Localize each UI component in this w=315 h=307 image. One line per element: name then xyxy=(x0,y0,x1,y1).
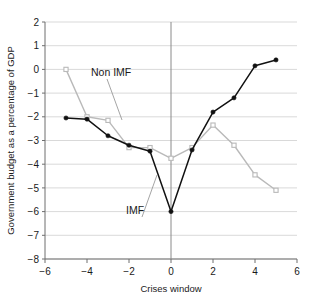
x-tick-label: 0 xyxy=(168,266,174,277)
data-point-marker xyxy=(274,58,278,62)
y-axis-ticks: 210−1−2−3−4−5−6−7−8 xyxy=(28,17,45,265)
y-tick-label: 0 xyxy=(33,64,39,75)
x-tick-label: 4 xyxy=(252,266,258,277)
data-point-marker xyxy=(253,64,257,68)
data-point-marker xyxy=(85,117,89,121)
y-tick-label: −6 xyxy=(28,206,40,217)
data-point-marker xyxy=(64,116,68,120)
y-tick-label: −4 xyxy=(28,159,40,170)
data-point-marker xyxy=(253,173,257,177)
y-tick-label: −5 xyxy=(28,183,40,194)
x-axis-ticks: −6−4−20246 xyxy=(39,259,300,277)
data-point-marker xyxy=(232,143,236,147)
data-point-marker xyxy=(211,123,215,127)
y-axis-title: Government budget as a percentage of GDP xyxy=(5,46,16,235)
data-point-marker xyxy=(148,149,152,153)
chart-container: −6−4−20246 210−1−2−3−4−5−6−7−8 Non IMFIM… xyxy=(0,0,315,307)
data-point-marker xyxy=(232,96,236,100)
data-point-marker xyxy=(169,210,173,214)
data-point-marker xyxy=(211,110,215,114)
data-point-marker xyxy=(127,143,131,147)
x-tick-label: −4 xyxy=(81,266,93,277)
data-point-marker xyxy=(274,188,278,192)
data-point-marker xyxy=(106,134,110,138)
x-axis-title: Crises window xyxy=(140,283,201,294)
x-tick-label: 6 xyxy=(294,266,300,277)
x-tick-label: −6 xyxy=(39,266,51,277)
line-chart: −6−4−20246 210−1−2−3−4−5−6−7−8 Non IMFIM… xyxy=(0,0,315,307)
data-point-marker xyxy=(190,148,194,152)
annotation-label-imf: IMF xyxy=(126,204,144,216)
y-tick-label: 2 xyxy=(33,17,39,28)
y-tick-label: −2 xyxy=(28,111,40,122)
y-tick-label: −3 xyxy=(28,135,40,146)
x-tick-label: −2 xyxy=(123,266,135,277)
x-tick-label: 2 xyxy=(210,266,216,277)
y-tick-label: 1 xyxy=(33,40,39,51)
data-point-marker xyxy=(169,156,173,160)
annotation-label-non-imf: Non IMF xyxy=(91,66,131,78)
data-point-marker xyxy=(64,67,68,71)
y-tick-label: −8 xyxy=(28,254,40,265)
y-tick-label: −7 xyxy=(28,230,40,241)
data-point-marker xyxy=(106,118,110,122)
y-tick-label: −1 xyxy=(28,88,40,99)
